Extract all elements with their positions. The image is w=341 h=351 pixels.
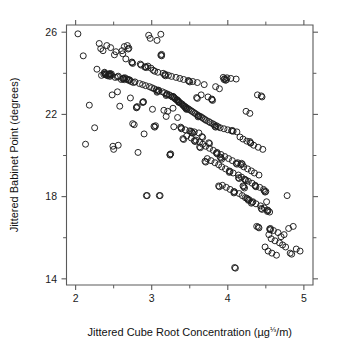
y-axis-title: Jittered Babinet Point (degrees) (8, 78, 20, 233)
data-point (80, 53, 86, 59)
data-points (75, 31, 303, 271)
data-point (92, 125, 98, 131)
x-tick-label: 4 (225, 292, 231, 304)
data-point (201, 82, 207, 88)
data-point (289, 251, 295, 257)
data-point (177, 75, 183, 81)
data-point (117, 103, 123, 109)
x-tick-label: 2 (73, 292, 79, 304)
data-point (171, 124, 177, 130)
axis-ticks (62, 20, 319, 290)
axis-tick-labels: 234526221814 (45, 26, 307, 304)
data-point (264, 199, 270, 205)
x-axis-title: Jittered Cube Root Concentration (µg⅓/m) (88, 325, 293, 338)
data-point (262, 244, 268, 250)
data-point (135, 149, 141, 155)
plot-canvas: 234526221814 Jittered Cube Root Concentr… (0, 0, 341, 351)
plot-border (67, 25, 314, 285)
x-tick-label: 3 (149, 292, 155, 304)
scatter-plot-figure: 234526221814 Jittered Cube Root Concentr… (0, 0, 341, 351)
y-tick-label: 22 (45, 108, 57, 120)
data-point (75, 31, 81, 37)
data-point (94, 66, 100, 72)
y-tick-label: 18 (45, 190, 57, 202)
data-point (170, 105, 176, 111)
y-tick-label: 26 (45, 26, 57, 38)
data-point (123, 56, 129, 62)
plot-frame (67, 25, 314, 285)
data-point (284, 193, 290, 199)
data-point (141, 131, 147, 137)
data-point (221, 126, 227, 132)
x-tick-label: 5 (301, 292, 307, 304)
data-point (175, 114, 181, 120)
y-tick-label: 14 (45, 273, 57, 285)
data-point (158, 31, 164, 37)
data-point (149, 106, 155, 112)
data-point (86, 102, 92, 108)
data-point (127, 95, 133, 101)
data-point (83, 141, 89, 147)
data-point (114, 89, 120, 95)
data-point (161, 107, 167, 113)
data-point (154, 37, 160, 43)
x-axis-title-prefix: Jittered Cube Root Concentration (µg (88, 326, 270, 338)
x-axis-title-suffix: /m) (276, 326, 292, 338)
